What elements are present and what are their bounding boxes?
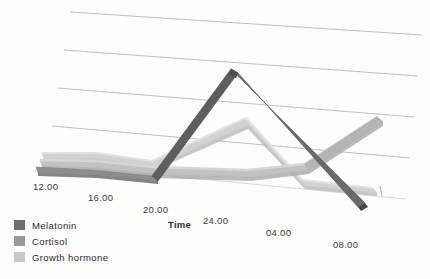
chart-legend: Melatonin Cortisol Growth hormone: [14, 219, 108, 263]
legend-swatch-growth-hormone-icon: [14, 252, 25, 262]
legend-item-growth-hormone[interactable]: Growth hormone: [14, 251, 108, 263]
gridline-3: [58, 88, 414, 117]
x-tick-label-20: 20.00: [143, 204, 168, 215]
cortisol-rise-band: [305, 117, 383, 170]
x-tick-label-12: 12.00: [33, 181, 58, 192]
gridline-2: [64, 50, 418, 76]
legend-label-growth-hormone: Growth hormone: [32, 252, 108, 263]
chart-container: 12.00 16.00 20.00 24.00 04.00 08.00 Time…: [0, 0, 430, 279]
x-tick-label-16: 16.00: [88, 192, 113, 203]
legend-label-cortisol: Cortisol: [32, 236, 67, 247]
x-axis-title: Time: [168, 219, 191, 230]
x-tick-label-04: 04.00: [266, 227, 291, 238]
gridline-1: [70, 12, 422, 35]
legend-item-melatonin[interactable]: Melatonin: [14, 219, 108, 231]
axis-end-tick: [380, 186, 382, 196]
x-tick-label-24: 24.00: [203, 215, 228, 226]
melatonin-peak-up-face: [152, 69, 238, 181]
legend-swatch-melatonin-icon: [14, 220, 25, 230]
x-tick-label-08: 08.00: [333, 239, 358, 250]
legend-item-cortisol[interactable]: Cortisol: [14, 235, 108, 247]
legend-swatch-cortisol-icon: [14, 236, 25, 246]
legend-label-melatonin: Melatonin: [32, 220, 77, 231]
